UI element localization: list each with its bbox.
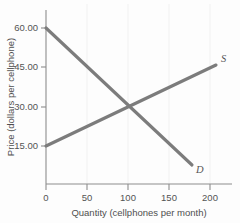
- y-tick-label-45: 45.00: [14, 61, 38, 72]
- y-axis-title: Price (dollars per cellphone): [5, 38, 16, 156]
- axes: [46, 10, 232, 184]
- x-tick-label-100: 100: [120, 192, 136, 203]
- y-tick-label-30: 30.00: [14, 101, 38, 112]
- gridlines: [87, 4, 210, 184]
- supply-curve: [46, 65, 216, 146]
- x-tick-label-150: 150: [161, 192, 177, 203]
- x-tick-label-50: 50: [82, 192, 93, 203]
- y-tick-label-15: 15.00: [14, 140, 38, 151]
- demand-curve-label: D: [195, 164, 204, 175]
- y-tick-label-60: 60.00: [14, 22, 38, 33]
- x-axis-ticks: [46, 184, 210, 190]
- x-tick-label-0: 0: [43, 192, 48, 203]
- demand-curve: [46, 28, 192, 165]
- y-axis-ticks: [41, 28, 46, 146]
- chart-canvas: 60.00 45.00 30.00 15.00 0 50 100 150 200…: [0, 0, 240, 223]
- x-axis-title: Quantity (cellphones per month): [71, 207, 206, 218]
- supply-demand-chart: 60.00 45.00 30.00 15.00 0 50 100 150 200…: [0, 0, 240, 223]
- supply-curve-label: S: [221, 53, 227, 64]
- x-tick-label-200: 200: [202, 192, 218, 203]
